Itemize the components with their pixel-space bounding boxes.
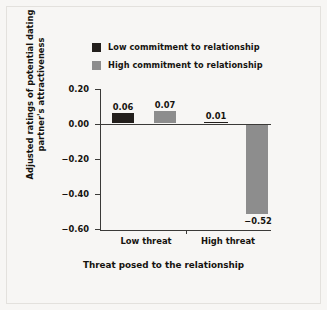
- y-axis-title: Adjusted ratings of potential dating par…: [25, 7, 46, 182]
- y-tick-label-0: 0.20: [45, 84, 89, 94]
- bar-value-low-threat-low-commitment: 0.06: [104, 102, 142, 112]
- bar-low-threat-high-commitment: [154, 111, 176, 123]
- bar-high-threat-high-commitment: [246, 125, 268, 215]
- x-group-label-high-threat: High threat: [188, 236, 268, 246]
- bar-value-high-threat-low-commitment: 0.01: [197, 111, 235, 121]
- bar-high-threat-low-commitment: [204, 122, 228, 124]
- y-tick-mark-4: [95, 229, 100, 230]
- x-axis-title: Threat posed to the relationship: [0, 260, 327, 270]
- x-group-label-low-threat: Low threat: [106, 236, 186, 246]
- y-tick-label-1: 0.00: [45, 119, 89, 129]
- plot-area: Adjusted ratings of potential dating par…: [0, 0, 327, 310]
- figure-container: Low commitment to relationship High comm…: [0, 0, 327, 310]
- y-axis-title-line-1: Adjusted ratings of potential dating: [25, 7, 36, 182]
- y-tick-label-3: −0.40: [45, 189, 89, 199]
- y-tick-label-4: −0.60: [45, 224, 89, 234]
- bar-low-threat-low-commitment: [112, 113, 134, 123]
- y-tick-mark-1: [95, 124, 100, 125]
- y-axis-line: [100, 89, 101, 230]
- y-tick-label-2: −0.20: [45, 154, 89, 164]
- bar-value-low-threat-high-commitment: 0.07: [146, 100, 184, 110]
- y-tick-mark-3: [95, 194, 100, 195]
- y-tick-mark-2: [95, 159, 100, 160]
- y-tick-mark-0: [95, 89, 100, 90]
- x-axis-group-separator-tick: [186, 230, 187, 234]
- bar-value-high-threat-high-commitment: −0.52: [238, 216, 278, 226]
